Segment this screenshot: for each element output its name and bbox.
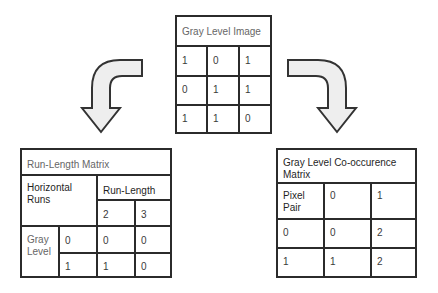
left-curved-arrow-icon (78, 58, 158, 138)
image-cell: 1 (208, 80, 224, 100)
glcm-cell: 1 (325, 252, 341, 272)
image-cell: 0 (240, 109, 256, 129)
glcm-col-header: 1 (372, 186, 388, 206)
glcm-col-header: 0 (325, 186, 341, 206)
right-curved-arrow-icon (286, 58, 366, 138)
glcm-table: Gray Level Co-occurence Matrix Pixel Pai… (276, 148, 417, 278)
gray-level-image-table: Gray Level Image 1 0 1 0 1 1 1 1 0 (175, 15, 272, 134)
pixel-pair-label: Pixel Pair (278, 186, 324, 218)
horizontal-runs-label: Horizontal Runs (22, 178, 98, 210)
image-cell: 0 (208, 51, 224, 71)
gray-level-label: Gray Level (22, 230, 60, 262)
run-length-cell: 0 (136, 257, 152, 277)
image-cell: 1 (240, 51, 256, 71)
run-length-col-header: 2 (98, 205, 114, 225)
glcm-row-label: 1 (278, 252, 294, 272)
run-length-col-header: 3 (136, 205, 152, 225)
glcm-row-label: 0 (278, 223, 294, 243)
run-length-row-label: 1 (60, 257, 76, 277)
run-length-label: Run-Length (98, 181, 170, 201)
image-cell: 1 (240, 80, 256, 100)
gray-level-image-title: Gray Level Image (177, 22, 270, 42)
image-cell: 1 (177, 51, 193, 71)
glcm-cell: 2 (372, 223, 388, 243)
image-cell: 1 (208, 109, 224, 129)
glcm-title: Gray Level Co-occurence Matrix (278, 153, 415, 185)
run-length-cell: 1 (98, 257, 114, 277)
image-cell: 0 (177, 80, 193, 100)
run-length-cell: 0 (98, 231, 114, 251)
glcm-cell: 2 (372, 252, 388, 272)
run-length-row-label: 0 (60, 231, 76, 251)
run-length-cell: 0 (136, 231, 152, 251)
glcm-cell: 0 (325, 223, 341, 243)
image-cell: 1 (177, 109, 193, 129)
run-length-matrix-title: Run-Length Matrix (22, 155, 170, 175)
run-length-matrix-table: Run-Length Matrix Horizontal Runs Run-Le… (20, 148, 172, 278)
